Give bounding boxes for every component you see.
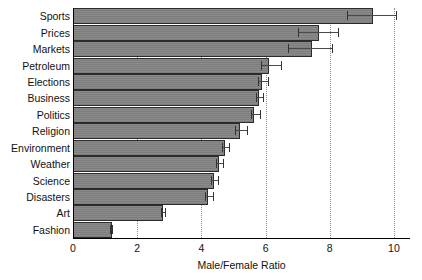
category-label-business: Business — [0, 90, 70, 106]
plot-frame — [73, 8, 410, 238]
category-label-science: Science — [0, 173, 70, 189]
category-label-elections: Elections — [0, 74, 70, 90]
category-label-markets: Markets — [0, 41, 70, 57]
x-tick-label-10: 10 — [388, 242, 400, 254]
category-label-prices: Prices — [0, 25, 70, 41]
category-label-fashion: Fashion — [0, 222, 70, 238]
category-label-religion: Religion — [0, 123, 70, 139]
x-axis-line — [73, 238, 410, 239]
x-tick-label-0: 0 — [70, 242, 76, 254]
category-label-art: Art — [0, 205, 70, 221]
bar-chart: SportsPricesMarketsPetroleumElectionsBus… — [0, 0, 422, 280]
category-label-politics: Politics — [0, 107, 70, 123]
category-axis-labels: SportsPricesMarketsPetroleumElectionsBus… — [0, 8, 70, 238]
category-label-weather: Weather — [0, 156, 70, 172]
x-tick-label-8: 8 — [327, 242, 333, 254]
x-axis-title: Male/Female Ratio — [73, 259, 410, 271]
category-label-sports: Sports — [0, 8, 70, 24]
x-tick-label-4: 4 — [198, 242, 204, 254]
x-tick-label-6: 6 — [263, 242, 269, 254]
category-label-disasters: Disasters — [0, 189, 70, 205]
plot-area — [73, 8, 410, 238]
category-label-environment: Environment — [0, 140, 70, 156]
x-tick-label-2: 2 — [134, 242, 140, 254]
category-label-petroleum: Petroleum — [0, 58, 70, 74]
